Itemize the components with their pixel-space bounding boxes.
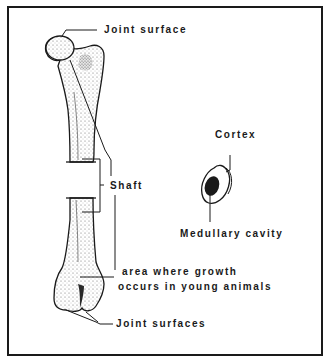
bone-illustration — [0, 0, 332, 364]
label-joint-surfaces: Joint surfaces — [116, 317, 206, 331]
bone-lower-part — [54, 198, 104, 311]
label-growth-area-line2: occurs in young animals — [118, 280, 272, 294]
label-joint-surface: Joint surface — [104, 23, 187, 37]
label-shaft: Shaft — [110, 179, 143, 193]
label-medullary-cavity: Medullary cavity — [180, 227, 283, 241]
bone-upper-part — [45, 36, 104, 162]
label-growth-area-line1: area where growth — [122, 265, 238, 279]
label-cortex: Cortex — [215, 128, 256, 142]
